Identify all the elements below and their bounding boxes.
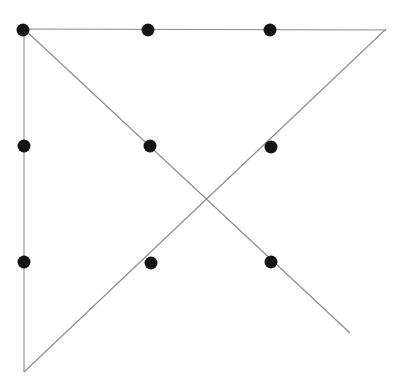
dot-bottom-center: [145, 257, 158, 270]
dot-middle-left: [18, 140, 31, 153]
dot-top-center: [142, 24, 155, 37]
dot-bottom-right: [265, 256, 278, 269]
dot-middle-center: [144, 140, 157, 153]
dot-bottom-left: [18, 256, 31, 269]
dot-top-right: [264, 24, 277, 37]
figure-canvas: [0, 0, 401, 388]
dot-top-left: [17, 24, 30, 37]
figure-svg: [0, 0, 401, 388]
dot-middle-right: [265, 141, 278, 154]
